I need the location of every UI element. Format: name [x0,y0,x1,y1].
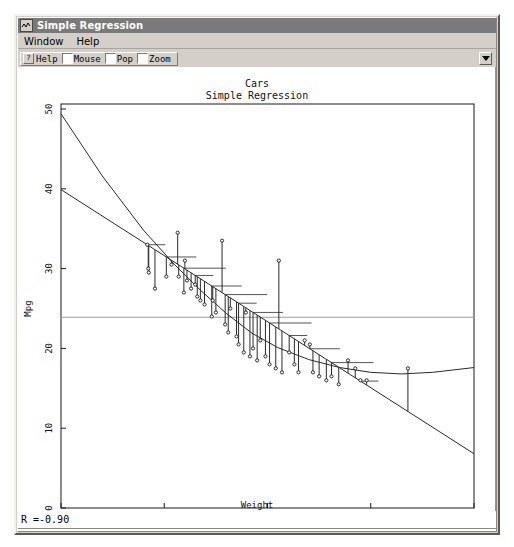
data-point[interactable] [406,367,409,370]
data-point[interactable] [177,275,180,278]
data-point[interactable] [354,367,357,370]
x-axis-label: Weight [241,500,274,510]
simple-regression-window: Simple Regression Window Help ? Help Mou… [14,14,500,535]
smoother-path [61,114,474,374]
y-axis-ticks: 01020304050 [44,104,66,511]
data-point[interactable] [165,275,168,278]
data-point[interactable] [203,303,206,306]
data-point[interactable] [346,359,349,362]
data-point[interactable] [359,379,362,382]
data-point[interactable] [274,367,277,370]
y-tick-label: 30 [44,263,54,274]
y-tick-label: 50 [44,104,54,115]
data-point[interactable] [147,271,150,274]
y-axis-label: Mpg [23,300,33,316]
status-divider [18,528,496,530]
data-point[interactable] [330,375,333,378]
y-tick-label: 40 [44,183,54,194]
data-point[interactable] [176,231,179,234]
data-point[interactable] [244,311,247,314]
data-point[interactable] [288,351,291,354]
status-bar: R =-0.90 [18,511,496,531]
data-point[interactable] [237,343,240,346]
data-point[interactable] [182,291,185,294]
data-point[interactable] [259,339,262,342]
data-point[interactable] [224,323,227,326]
dropdown-arrow-icon[interactable] [479,52,492,65]
question-mark-icon: ? [23,53,34,64]
title-bar[interactable]: Simple Regression [18,18,496,33]
data-point[interactable] [214,311,217,314]
chart-title: Cars [245,78,269,89]
toolbar-controls-group: ? Help Mouse Pop Zoom [20,52,178,66]
data-point[interactable] [311,371,314,374]
data-point[interactable] [365,379,368,382]
data-point[interactable] [185,279,188,282]
data-point[interactable] [242,351,245,354]
mouse-checkbox[interactable] [62,53,73,64]
data-point[interactable] [280,371,283,374]
plot-canvas[interactable]: Cars Simple Regression 01020304050 12345… [18,67,496,517]
smoother-curve-line [61,114,474,374]
data-point[interactable] [229,307,232,310]
pop-checkbox[interactable] [105,53,116,64]
zoom-checkbox-label: Zoom [149,54,171,64]
menu-bar: Window Help [18,34,496,49]
data-point[interactable] [227,331,230,334]
data-point[interactable] [337,383,340,386]
data-point[interactable] [256,359,259,362]
data-point[interactable] [277,259,280,262]
data-point[interactable] [297,371,300,374]
zoom-checkbox[interactable] [137,53,148,64]
triangle-glyph [482,56,490,61]
mouse-checkbox-label: Mouse [74,54,101,64]
toolbar: ? Help Mouse Pop Zoom [18,50,496,67]
data-point[interactable] [235,335,238,338]
correlation-status-text: R =-0.90 [21,514,69,525]
data-point[interactable] [146,243,149,246]
y-tick-label: 0 [44,505,54,510]
data-point[interactable] [194,283,197,286]
menu-item-help[interactable]: Help [70,36,106,47]
data-point[interactable] [264,355,267,358]
help-button-label: Help [36,54,58,64]
data-point[interactable] [293,363,296,366]
waveform-icon [20,19,33,32]
data-point[interactable] [211,299,214,302]
data-point[interactable] [251,347,254,350]
data-point[interactable] [210,315,213,318]
data-point[interactable] [196,295,199,298]
plot-frame [61,104,474,508]
chart-subtitle: Simple Regression [206,90,308,101]
data-point[interactable] [303,339,306,342]
least-squares-line [61,190,474,454]
y-tick-label: 10 [44,423,54,434]
data-point[interactable] [220,239,223,242]
regression-line [61,190,474,454]
menu-item-window[interactable]: Window [18,36,70,47]
data-point[interactable] [308,343,311,346]
pop-checkbox-label: Pop [117,54,133,64]
y-tick-label: 20 [44,343,54,354]
data-point[interactable] [318,375,321,378]
data-point[interactable] [189,287,192,290]
regression-plot: Cars Simple Regression 01020304050 12345… [18,67,496,517]
data-point[interactable] [199,299,202,302]
data-point[interactable] [325,379,328,382]
help-button[interactable]: ? [23,53,34,64]
data-point[interactable] [153,287,156,290]
data-point[interactable] [183,259,186,262]
data-point[interactable] [268,363,271,366]
data-point[interactable] [170,263,173,266]
data-point[interactable] [147,267,150,270]
window-title: Simple Regression [37,20,143,31]
data-point[interactable] [248,355,251,358]
